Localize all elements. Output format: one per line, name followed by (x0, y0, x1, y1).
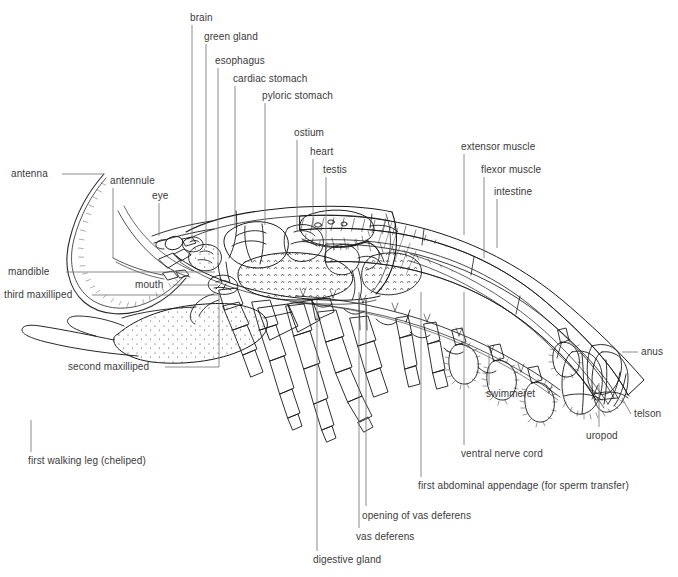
anatomy-figure-page: antennaantennuleeyebraingreen glandesoph… (0, 0, 678, 577)
label-vas-deferens: vas deferens (356, 531, 414, 542)
label-antennule: antennule (110, 175, 155, 186)
label-intestine: intestine (494, 186, 532, 197)
ostium-opening (341, 222, 347, 226)
green-gland-organ (189, 244, 222, 270)
antenna-structure (67, 174, 193, 314)
label-heart: heart (310, 146, 333, 157)
label-second-maxilliped: second maxilliped (68, 361, 149, 372)
label-first-abdominal-appendage: first abdominal appendage (for sperm tra… (418, 480, 629, 491)
abdominal-sterna (290, 288, 560, 400)
label-swimmeret: swimmeret (486, 388, 535, 399)
label-ostium: ostium (294, 127, 324, 138)
label-digestive-gland: digestive gland (313, 554, 381, 565)
digestive-gland-organ (238, 253, 353, 300)
label-extensor-muscle: extensor muscle (461, 141, 535, 152)
label-cardiac-stomach: cardiac stomach (233, 73, 307, 84)
label-testis: testis (323, 164, 347, 175)
swimmerets (444, 328, 582, 427)
label-esophagus: esophagus (215, 55, 265, 66)
leader-telson (622, 398, 631, 414)
label-opening-vas-deferens: opening of vas deferens (362, 510, 471, 521)
cheliped-first-walking-leg (22, 298, 334, 363)
label-third-maxilliped: third maxilliped (4, 289, 72, 300)
walking-legs (252, 300, 388, 442)
label-first-walking-leg: first walking leg (cheliped) (28, 455, 146, 466)
antennule-structure (113, 258, 189, 280)
first-abdominal-appendage (396, 310, 448, 389)
label-pyloric-stomach: pyloric stomach (262, 90, 333, 101)
label-mandible: mandible (8, 266, 49, 277)
label-green-gland: green gland (204, 31, 258, 42)
label-mouth: mouth (135, 279, 163, 290)
label-ventral-nerve-cord: ventral nerve cord (461, 448, 543, 459)
label-uropod: uropod (586, 430, 618, 441)
label-telson: telson (634, 408, 661, 419)
label-anus: anus (641, 346, 663, 357)
label-eye: eye (152, 190, 168, 201)
label-antenna: antenna (11, 168, 48, 179)
label-flexor-muscle: flexor muscle (481, 164, 541, 175)
label-brain: brain (190, 12, 213, 23)
ostium-opening (315, 223, 322, 227)
